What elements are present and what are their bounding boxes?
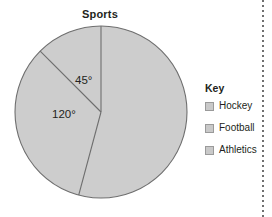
legend-item-label: Football [219, 122, 255, 134]
chart-title: Sports [0, 8, 200, 20]
pie-chart: 45° 120° [14, 25, 188, 199]
pie-svg: 45° 120° [14, 25, 188, 199]
legend-swatch-icon [205, 102, 214, 111]
page-edge-dotted-rule [262, 0, 264, 217]
legend: Key Hockey Football Athletics [205, 82, 263, 156]
pie-chart-figure: Sports 45° 120° Key Hockey Football [0, 0, 272, 217]
slice-label-45: 45° [75, 74, 92, 86]
legend-item-football: Football [205, 122, 263, 134]
legend-title: Key [205, 82, 263, 94]
slice-label-120: 120° [52, 108, 76, 120]
legend-item-label: Athletics [219, 144, 257, 156]
legend-swatch-icon [205, 124, 214, 133]
legend-item-hockey: Hockey [205, 100, 263, 112]
legend-item-athletics: Athletics [205, 144, 263, 156]
legend-item-label: Hockey [219, 100, 252, 112]
legend-swatch-icon [205, 146, 214, 155]
